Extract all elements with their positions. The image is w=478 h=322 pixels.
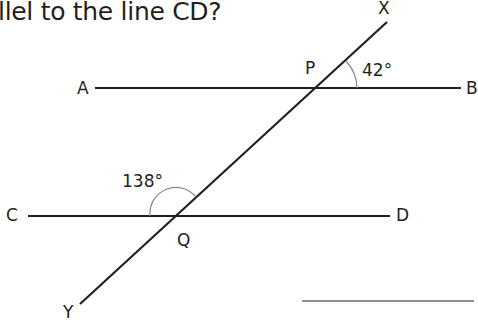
label-q: Q (177, 232, 190, 249)
label-c: C (6, 207, 18, 224)
label-y: Y (63, 304, 73, 321)
label-b: B (466, 80, 478, 97)
transversal-xy (80, 22, 387, 304)
angle-arc-p (346, 61, 357, 88)
label-x: X (378, 0, 390, 17)
angle-label-q: 138° (122, 173, 163, 190)
label-p: P (305, 60, 315, 77)
angle-label-p: 42° (362, 62, 392, 79)
label-d: D (396, 207, 409, 224)
angle-arc-q (150, 187, 196, 216)
label-a: A (77, 80, 89, 97)
